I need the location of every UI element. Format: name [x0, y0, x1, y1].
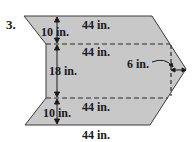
prism-net-figure: 3. 44 in. 10 in. 44 in. 18 in. 6 in. 44 … — [0, 0, 192, 142]
problem-number: 3. — [6, 17, 16, 32]
label-top-height: 10 in. — [41, 25, 69, 39]
label-middle-height: 18 in. — [49, 64, 77, 78]
label-upper-dashed: 44 in. — [82, 45, 110, 59]
label-lower-dashed: 44 in. — [82, 100, 110, 114]
label-bottom-edge: 44 in. — [82, 128, 110, 142]
label-bottom-height: 10 in. — [43, 106, 71, 120]
label-top-edge: 44 in. — [82, 18, 110, 32]
label-tip-width: 6 in. — [127, 57, 149, 71]
